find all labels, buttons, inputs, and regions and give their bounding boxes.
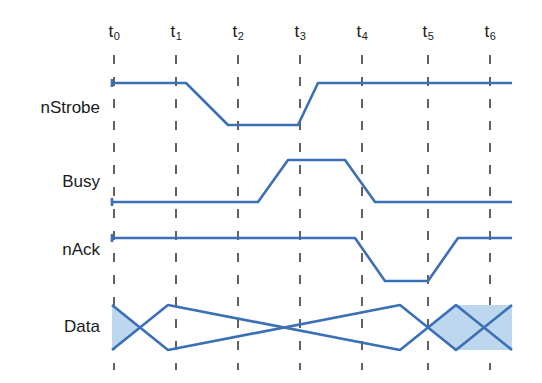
time-label-t2: t2 <box>233 22 244 42</box>
time-label-t1: t1 <box>171 22 182 42</box>
waveform-nack <box>112 238 512 281</box>
time-label-t0: t0 <box>109 22 120 42</box>
signal-label-data: Data <box>0 317 100 337</box>
data-bus-shaded-segment <box>428 305 512 350</box>
time-label-t4: t4 <box>357 22 368 42</box>
time-label-t5: t5 <box>423 22 434 42</box>
signal-label-busy: Busy <box>0 172 100 192</box>
waveform-nstrobe <box>112 83 512 125</box>
data-bus-shaded-segment <box>112 305 140 350</box>
time-label-t3: t3 <box>295 22 306 42</box>
timing-diagram-figure: t0t1t2t3t4t5t6 nStrobeBusynAckData <box>0 0 542 383</box>
signal-label-nack: nAck <box>0 240 100 260</box>
signal-label-nstrobe: nStrobe <box>0 98 100 118</box>
signal-waveforms <box>112 79 512 350</box>
time-label-t6: t6 <box>485 22 496 42</box>
waveform-data <box>112 305 512 350</box>
waveform-busy <box>112 160 512 202</box>
